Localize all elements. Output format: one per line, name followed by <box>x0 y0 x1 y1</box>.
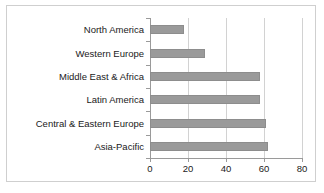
bar <box>150 95 260 104</box>
gridline-0 <box>150 18 151 158</box>
x-tick-label-40: 40 <box>211 163 241 174</box>
bar <box>150 119 266 128</box>
x-tick-mark-20 <box>188 158 189 162</box>
bar <box>150 25 184 34</box>
x-tick-mark-60 <box>264 158 265 162</box>
x-tick-mark-40 <box>226 158 227 162</box>
x-tick-mark-0 <box>150 158 151 162</box>
gridline-20 <box>188 18 189 158</box>
category-label: Central & Eastern Europe <box>0 118 144 129</box>
gridline-40 <box>226 18 227 158</box>
category-label: Middle East & Africa <box>0 71 144 82</box>
bar <box>150 72 260 81</box>
x-tick-label-80: 80 <box>287 163 317 174</box>
bar <box>150 49 205 58</box>
category-label: Latin America <box>0 94 144 105</box>
x-tick-label-20: 20 <box>173 163 203 174</box>
gridline-80 <box>302 18 303 158</box>
category-label: Asia-Pacific <box>0 141 144 152</box>
bar-chart-plot: 020406080North AmericaWestern EuropeMidd… <box>0 0 324 193</box>
category-label: Western Europe <box>0 48 144 59</box>
y-tick-mark-1 <box>146 41 150 42</box>
y-tick-mark-3 <box>146 88 150 89</box>
bar <box>150 142 268 151</box>
gridline-60 <box>264 18 265 158</box>
y-tick-mark-4 <box>146 111 150 112</box>
x-tick-label-0: 0 <box>135 163 165 174</box>
y-tick-mark-2 <box>146 65 150 66</box>
category-label: North America <box>0 24 144 35</box>
y-tick-mark-6 <box>146 158 150 159</box>
x-tick-mark-80 <box>302 158 303 162</box>
y-tick-mark-0 <box>146 18 150 19</box>
y-tick-mark-5 <box>146 135 150 136</box>
x-tick-label-60: 60 <box>249 163 279 174</box>
